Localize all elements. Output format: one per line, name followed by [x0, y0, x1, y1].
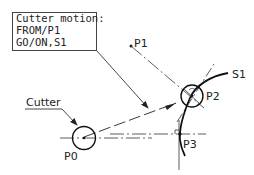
cutter-leader-arrow [25, 109, 77, 125]
cutter-label: Cutter [26, 96, 61, 109]
caption-box: Cutter motion: FROM/P1 GO/ON,S1 [13, 12, 105, 51]
p1-to-p2-line [131, 46, 204, 108]
cutter-at-p2 [181, 85, 203, 107]
caption-line-2: FROM/P1 [16, 24, 60, 36]
caption-leader-arrow [97, 51, 148, 108]
motion-arrow-icon [165, 103, 176, 110]
p0-label: P0 [64, 150, 78, 163]
right-angle-mark [175, 130, 179, 134]
p1-point [130, 45, 133, 48]
p3-label: P3 [183, 138, 197, 151]
caption-line-3: GO/ON,S1 [16, 36, 67, 48]
p1-label: P1 [134, 37, 148, 50]
caption-line-1: Cutter motion: [16, 12, 105, 24]
cutter-motion-diagram: Cutter motion: FROM/P1 GO/ON,S1 Cutter P… [0, 0, 254, 175]
p2-label: P2 [206, 90, 220, 103]
p3-point [178, 132, 181, 135]
motion-path [84, 103, 176, 137]
s1-label: S1 [232, 68, 246, 81]
